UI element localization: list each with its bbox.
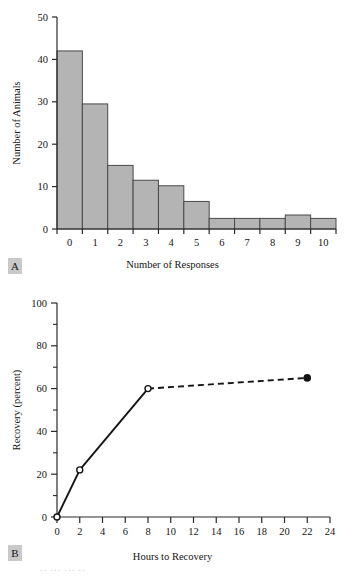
chart-b-x-tick-label: 24 <box>325 526 336 537</box>
chart-a-y-tick-label: 50 <box>38 12 49 23</box>
chart-b-y-tick-label: 20 <box>37 469 48 480</box>
chart-a-y-tick-label: 40 <box>38 54 49 65</box>
chart-a-x-tick-label: 9 <box>295 237 300 248</box>
chart-b-x-tick-label: 18 <box>257 526 268 537</box>
chart-a-x-tick-label: 7 <box>245 237 250 248</box>
chart-b-line-segment-dashed <box>148 378 307 389</box>
chart-b-x-tick-label: 16 <box>234 526 245 537</box>
chart-b-y-tick-label: 60 <box>37 383 48 394</box>
chart-b-line-segment-solid <box>80 389 148 470</box>
chart-b-y-tick-label: 100 <box>31 298 47 309</box>
histogram-bar <box>209 218 234 229</box>
histogram-bar <box>82 104 107 229</box>
histogram-bar <box>285 215 310 229</box>
histogram-bar <box>133 180 158 229</box>
partial-caption-text: ·· ··· ··· ·· <box>40 567 160 575</box>
chart-panel-b: 020406080100024681012141618202224Recover… <box>0 285 345 577</box>
chart-b-x-tick-label: 22 <box>302 526 313 537</box>
chart-b-y-axis-title: Recovery (percent) <box>11 369 23 450</box>
chart-b-x-tick-label: 2 <box>77 526 82 537</box>
histogram-bar <box>57 51 82 229</box>
line-chart-recovery-percent: 020406080100024681012141618202224Recover… <box>0 285 345 577</box>
chart-a-y-tick-label: 10 <box>38 181 49 192</box>
chart-a-x-axis-title: Number of Responses <box>0 259 345 270</box>
chart-b-x-tick-label: 14 <box>211 526 222 537</box>
histogram-number-of-animals: 01020304050012345678910Number of Animals <box>0 0 345 285</box>
chart-a-x-tick-label: 3 <box>143 237 148 248</box>
histogram-bar <box>235 218 260 229</box>
chart-b-x-tick-label: 10 <box>166 526 177 537</box>
chart-panel-a: 01020304050012345678910Number of Animals <box>0 0 345 285</box>
histogram-bar <box>311 218 336 229</box>
chart-b-x-tick-label: 6 <box>123 526 128 537</box>
chart-a-x-tick-label: 5 <box>194 237 199 248</box>
chart-b-x-tick-label: 0 <box>54 526 59 537</box>
histogram-bar <box>184 201 209 229</box>
histogram-bar <box>260 218 285 229</box>
chart-b-data-point-open <box>54 514 60 520</box>
chart-b-x-axis-title: Hours to Recovery <box>0 551 345 562</box>
chart-a-x-tick-label: 4 <box>169 237 175 248</box>
chart-a-x-tick-label: 2 <box>118 237 123 248</box>
chart-b-y-tick-label: 80 <box>37 340 48 351</box>
chart-b-x-tick-label: 8 <box>145 526 150 537</box>
chart-a-y-tick-label: 30 <box>38 96 49 107</box>
histogram-bar <box>108 165 133 229</box>
chart-a-x-tick-label: 1 <box>92 237 97 248</box>
chart-b-data-point-open <box>77 467 83 473</box>
chart-b-y-tick-label: 0 <box>42 512 47 523</box>
chart-a-x-tick-label: 10 <box>318 237 329 248</box>
chart-a-y-axis-title: Number of Animals <box>11 81 22 164</box>
chart-a-x-tick-label: 8 <box>270 237 275 248</box>
chart-b-x-tick-label: 4 <box>100 526 106 537</box>
chart-a-y-tick-label: 20 <box>38 139 49 150</box>
chart-a-x-tick-label: 6 <box>219 237 224 248</box>
chart-b-y-tick-label: 40 <box>37 426 48 437</box>
chart-b-x-tick-label: 20 <box>279 526 290 537</box>
chart-b-line-segment-solid <box>57 470 80 517</box>
figure-container: 01020304050012345678910Number of Animals… <box>0 0 345 577</box>
chart-b-x-tick-label: 12 <box>188 526 199 537</box>
chart-a-y-tick-label: 0 <box>43 224 48 235</box>
chart-a-x-tick-label: 0 <box>67 237 72 248</box>
chart-b-data-point-filled <box>304 375 310 381</box>
chart-b-data-point-open <box>145 386 151 392</box>
histogram-bar <box>158 186 183 229</box>
